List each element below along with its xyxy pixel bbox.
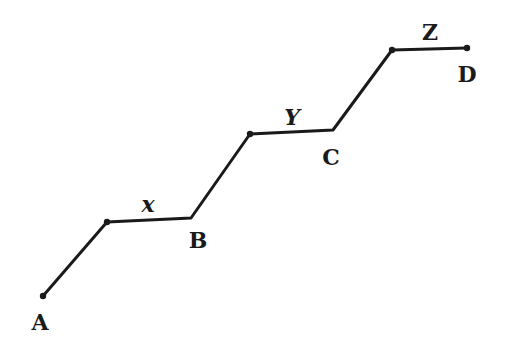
label-a: A (31, 311, 48, 333)
vertex-dot (389, 47, 395, 53)
vertex-dot (464, 45, 470, 51)
label-z: Z (422, 21, 438, 43)
label-c: C (322, 146, 340, 168)
vertex-dot (104, 219, 110, 225)
label-d: D (457, 63, 476, 85)
vertex-dots (40, 45, 470, 299)
label-b: B (189, 229, 208, 251)
label-y: Y (284, 106, 300, 128)
vertex-dot (247, 131, 253, 137)
staircase-diagram (0, 0, 509, 345)
vertex-dot (40, 293, 46, 299)
label-x: x (141, 193, 154, 215)
staircase-path (43, 48, 467, 296)
